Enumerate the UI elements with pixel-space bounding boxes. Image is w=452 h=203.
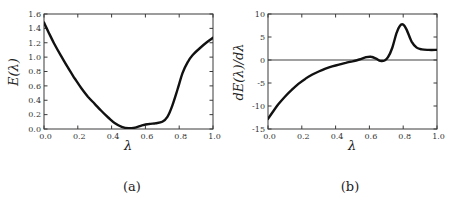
- panel-b-curve: [268, 24, 437, 119]
- x-tick-label: 1.0: [432, 132, 445, 141]
- y-tick-label: -10: [252, 102, 265, 111]
- y-tick-label: 0: [260, 56, 265, 65]
- figure: 0.00.20.40.60.81.00.00.20.40.60.81.01.21…: [0, 0, 452, 203]
- y-tick-label: 0.0: [28, 125, 41, 134]
- x-tick-label: 0.0: [263, 132, 276, 141]
- x-tick-label: 0.0: [39, 132, 52, 141]
- panel-a-curve: [44, 23, 213, 129]
- panel-a-y-axis-label: E(λ): [6, 58, 21, 86]
- y-tick-label: 0.4: [28, 96, 41, 105]
- x-tick-label: 0.6: [365, 132, 378, 141]
- y-tick-label: 10: [255, 10, 265, 19]
- y-tick-label: 1.0: [28, 53, 41, 62]
- x-tick-label: 0.2: [297, 132, 310, 141]
- panel-b-x-axis-label: λ: [348, 138, 356, 153]
- x-tick-label: 0.4: [331, 132, 344, 141]
- y-tick-label: 1.2: [28, 39, 41, 48]
- panel-b-caption: (b): [341, 179, 359, 194]
- x-tick-label: 1.0: [208, 132, 221, 141]
- x-tick-label: 0.8: [398, 132, 411, 141]
- x-tick-label: 0.4: [107, 132, 120, 141]
- panel-b-y-axis-label: dE(λ)/dλ: [231, 43, 246, 100]
- y-tick-label: -5: [257, 79, 265, 88]
- y-tick-label: -15: [252, 125, 265, 134]
- x-tick-label: 0.2: [73, 132, 86, 141]
- y-tick-label: 1.6: [28, 10, 41, 19]
- two-panel-line-chart: 0.00.20.40.60.81.00.00.20.40.60.81.01.21…: [0, 0, 452, 203]
- panel-a-caption: (a): [123, 179, 141, 194]
- y-tick-label: 5: [260, 33, 265, 42]
- x-tick-label: 0.8: [174, 132, 187, 141]
- panel-a-x-axis-label: λ: [124, 138, 132, 153]
- y-tick-label: 0.8: [28, 67, 41, 76]
- panel-b-frame: [268, 14, 437, 129]
- y-tick-label: 0.2: [28, 110, 41, 119]
- x-tick-label: 0.6: [141, 132, 154, 141]
- y-tick-label: 0.6: [28, 82, 41, 91]
- y-tick-label: 1.4: [28, 24, 41, 33]
